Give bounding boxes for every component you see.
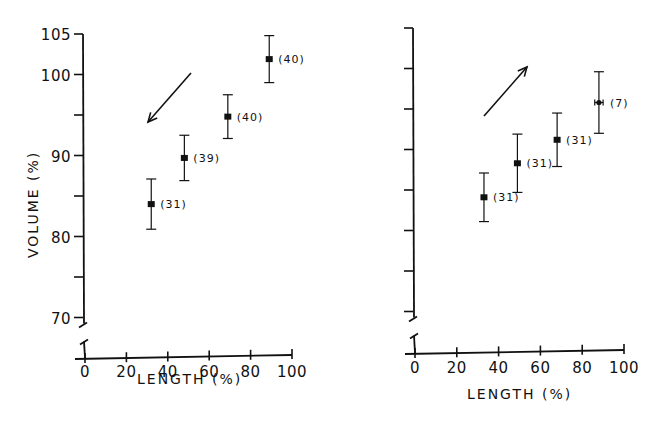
point-marker [181, 155, 188, 161]
x-axis [405, 350, 624, 354]
x-tick-label: 40 [489, 359, 509, 377]
y-tick-label: 105 [41, 26, 71, 44]
x-tick-label: 80 [241, 363, 261, 381]
x-tick-label: 100 [277, 363, 307, 381]
sample-size-label: (31) [526, 157, 553, 170]
y-axis [83, 34, 84, 324]
sample-size-label: (39) [193, 152, 220, 165]
point-marker [554, 137, 561, 143]
sample-size-label: (31) [493, 191, 520, 204]
sample-size-label: (31) [566, 134, 593, 147]
x-tick-label: 80 [572, 359, 592, 377]
data-point: (39) [179, 135, 220, 180]
y-tick-label: 100 [41, 67, 71, 85]
figure: 708090100105020406080100(31)(39)(40)(40)… [0, 0, 657, 428]
point-marker [224, 114, 231, 120]
right-panel: 020406080100(31)(31)(31)(7) [404, 28, 639, 377]
data-point: (31) [146, 179, 187, 229]
x-axis [75, 355, 292, 359]
sample-size-label: (31) [160, 198, 187, 211]
axis-break-upper [79, 323, 87, 328]
sample-size-label: (40) [237, 111, 264, 124]
point-marker [514, 160, 521, 166]
x-tick-label: 20 [116, 363, 136, 381]
sample-size-label: (7) [610, 97, 629, 110]
point-marker [596, 100, 601, 105]
sample-size-label: (40) [278, 53, 305, 66]
x-tick-label: 20 [447, 359, 467, 377]
direction-arrow [484, 67, 527, 116]
data-point: (40) [223, 95, 264, 139]
direction-arrow [148, 73, 191, 122]
x-tick-label: 60 [530, 359, 550, 377]
x-tick-label: 0 [410, 359, 420, 377]
data-point: (7) [594, 72, 629, 134]
y-axis [413, 28, 414, 318]
y-tick-label: 90 [51, 148, 71, 166]
point-marker [148, 201, 155, 207]
left-y-axis-title: VOLUME (%) [25, 151, 41, 258]
data-point: (40) [264, 36, 305, 83]
right-x-axis-title: LENGTH (%) [467, 386, 572, 402]
left-panel: 708090100105020406080100(31)(39)(40)(40) [41, 26, 307, 381]
y-tick-label: 80 [51, 229, 71, 247]
y-tick-label: 70 [51, 310, 71, 328]
left-x-axis-title: LENGTH (%) [137, 371, 242, 387]
x-tick-label: 0 [80, 363, 90, 381]
axis-break-upper [409, 317, 417, 322]
data-point: (31) [552, 113, 593, 166]
x-tick-label: 100 [609, 359, 639, 377]
point-marker [480, 194, 487, 200]
data-point: (31) [512, 134, 553, 192]
data-point: (31) [479, 173, 520, 222]
point-marker [266, 56, 273, 62]
